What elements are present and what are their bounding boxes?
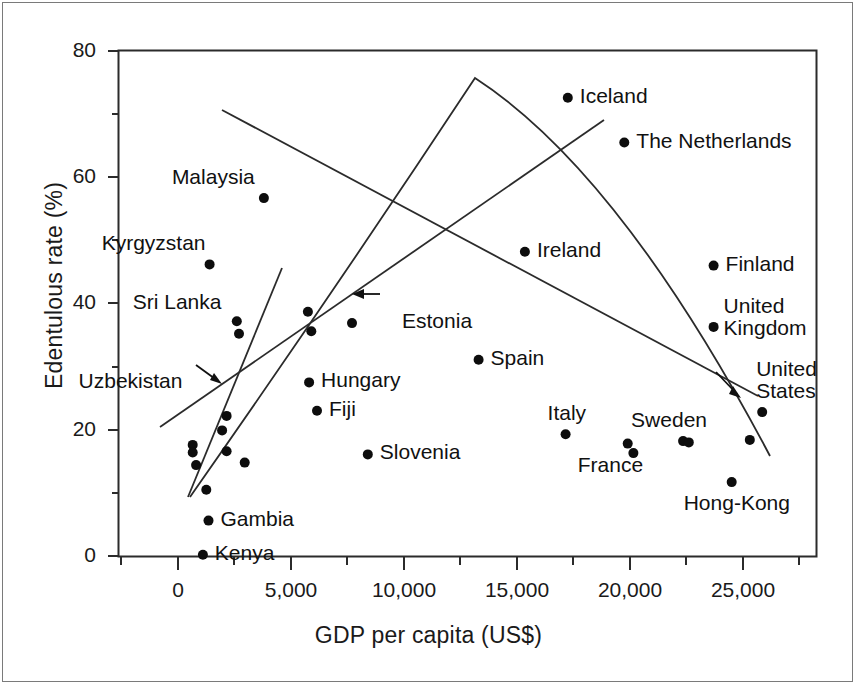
x-tick-label-20000: 20,000 — [565, 578, 695, 602]
y-axis-major-ticks — [108, 51, 118, 556]
data-point — [217, 425, 227, 435]
data-point — [363, 449, 373, 459]
data-point — [709, 261, 719, 271]
y-axis-title: Edentulous rate (%) — [41, 156, 68, 416]
data-point — [259, 193, 269, 203]
data-point — [201, 485, 211, 495]
data-point — [191, 460, 201, 470]
data-point — [306, 326, 316, 336]
plot-frame — [119, 51, 817, 557]
point-label-hungary: Hungary — [321, 369, 400, 391]
x-tick-label-10000: 10,000 — [339, 578, 469, 602]
data-point — [198, 550, 208, 560]
point-label-united-kingdom: UnitedKingdom — [724, 295, 807, 340]
y-tick-label-0: 0 — [52, 543, 96, 567]
y-tick-label-80: 80 — [52, 38, 96, 62]
point-label-kyrgyzstan: Kyrgyzstan — [102, 232, 206, 254]
data-point — [623, 439, 633, 449]
data-point — [563, 93, 573, 103]
x-tick-label-25000: 25,000 — [678, 578, 808, 602]
point-label-fiji: Fiji — [329, 398, 356, 420]
point-label-ireland: Ireland — [537, 239, 601, 261]
point-label-united-states: UnitedStates — [756, 358, 817, 403]
data-point — [304, 377, 314, 387]
point-label-malaysia: Malaysia — [172, 166, 255, 188]
data-point — [684, 437, 694, 447]
x-tick-label-0: 0 — [138, 578, 218, 602]
y-tick-label-20: 20 — [52, 417, 96, 441]
data-point — [757, 407, 767, 417]
point-label-sweden: Sweden — [631, 409, 707, 431]
point-label-france: France — [578, 454, 643, 476]
point-label-iceland: Iceland — [580, 85, 648, 107]
data-point — [234, 329, 244, 339]
data-point — [745, 435, 755, 445]
data-point-group — [188, 93, 768, 560]
uzbekistan-arrow-icon — [196, 365, 222, 384]
point-label-spain: Spain — [491, 347, 545, 369]
data-point — [204, 516, 214, 526]
point-label-estonia: Estonia — [402, 310, 472, 332]
point-label-hong-kong: Hong-Kong — [684, 492, 790, 514]
data-point — [222, 446, 232, 456]
point-label-gambia: Gambia — [221, 508, 295, 530]
x-tick-label-5000: 5,000 — [231, 578, 351, 602]
data-point — [205, 259, 215, 269]
point-label-slovenia: Slovenia — [380, 441, 461, 463]
data-point — [619, 138, 629, 148]
data-point — [520, 247, 530, 257]
data-point — [188, 448, 198, 458]
figure-container: 80 60 40 20 0 0 5,000 10,000 15,000 20,0… — [0, 0, 857, 688]
data-point — [561, 429, 571, 439]
x-tick-label-15000: 15,000 — [452, 578, 582, 602]
point-label-finland: Finland — [726, 253, 795, 275]
data-point — [347, 318, 357, 328]
data-point — [303, 307, 313, 317]
point-label-uzbekistan: Uzbekistan — [79, 370, 183, 392]
data-point — [709, 322, 719, 332]
point-label-sri-lanka: Sri Lanka — [133, 291, 222, 313]
point-label-the-netherlands: The Netherlands — [636, 130, 791, 152]
data-point — [474, 355, 484, 365]
data-point — [240, 458, 250, 468]
point-label-kenya: Kenya — [215, 542, 275, 564]
x-axis-title: GDP per capita (US$) — [0, 622, 857, 649]
data-point — [222, 411, 232, 421]
data-point — [232, 316, 242, 326]
data-point — [312, 406, 322, 416]
point-label-italy: Italy — [548, 402, 587, 424]
data-point — [727, 477, 737, 487]
